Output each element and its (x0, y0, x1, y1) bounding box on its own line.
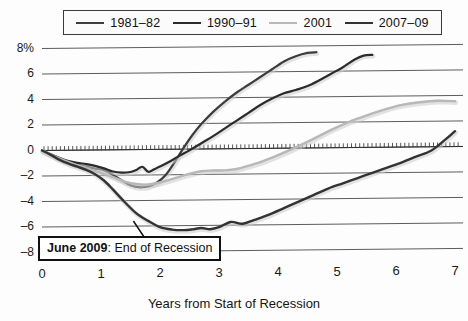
legend-item-1981-82[interactable]: 1981–82 (76, 16, 160, 30)
x-axis-title: Years from Start of Recession (0, 296, 468, 311)
x-axis-tick-label: 2 (150, 265, 170, 280)
gridline (42, 197, 463, 201)
chart-container: 1981–82 1990–91 2001 2007–09 8%6420–2–4–… (0, 0, 468, 321)
x-axis-tick-label: 4 (268, 264, 288, 279)
legend-swatch-1990-91 (173, 22, 201, 24)
legend-swatch-1981-82 (76, 22, 104, 24)
callout-rest-text: : End of Recession (107, 241, 212, 255)
x-axis-tick-label: 7 (445, 263, 465, 278)
series-lines (42, 52, 456, 231)
legend: 1981–82 1990–91 2001 2007–09 (63, 10, 442, 35)
zero-baseline (42, 142, 463, 151)
legend-label-1981-82: 1981–82 (110, 16, 160, 30)
series-line-2007-09 (42, 131, 455, 230)
x-axis-tick-label: 6 (386, 263, 406, 278)
gridline (42, 44, 463, 48)
x-axis-tick-label: 5 (327, 264, 347, 279)
legend-label-1990-91: 1990–91 (207, 16, 257, 30)
y-axis-tick-label: 6 (0, 66, 34, 80)
y-axis-tick-label: 8% (0, 41, 34, 55)
legend-item-1990-91[interactable]: 1990–91 (173, 16, 257, 30)
gridline (42, 121, 463, 125)
y-axis-tick-label: –8 (0, 245, 34, 259)
y-axis-tick-label: –6 (0, 219, 34, 233)
y-axis-tick-label: 0 (0, 143, 34, 157)
legend-item-2001[interactable]: 2001 (269, 16, 332, 30)
y-axis-tick-label: 2 (0, 117, 34, 131)
y-axis-tick-label: –2 (0, 168, 34, 182)
legend-label-2001: 2001 (303, 16, 332, 30)
legend-item-2007-09[interactable]: 2007–09 (345, 16, 429, 30)
legend-swatch-2001 (269, 22, 297, 24)
y-axis-tick-label: 4 (0, 92, 34, 106)
legend-swatch-2007-09 (345, 22, 373, 24)
y-axis-tick-label: –4 (0, 194, 34, 208)
callout-bold-text: June 2009 (47, 241, 107, 255)
end-of-recession-callout: June 2009: End of Recession (38, 236, 221, 261)
x-axis-tick-label: 1 (91, 266, 111, 281)
x-axis-tick-label: 0 (32, 266, 52, 281)
gridline (42, 70, 463, 74)
legend-label-2007-09: 2007–09 (379, 16, 429, 30)
gridline (42, 95, 463, 99)
x-axis-tick-label: 3 (209, 265, 229, 280)
